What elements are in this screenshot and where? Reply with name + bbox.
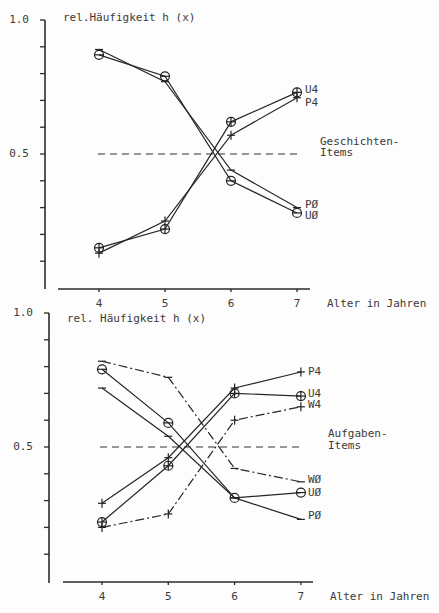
series-label: P4: [308, 365, 322, 378]
series-label: PØ: [308, 509, 322, 522]
x-tick-label: 6: [231, 590, 238, 603]
series-label: W4: [308, 398, 322, 411]
line-chart-figure: 1.00.54567Alter in Jahrenrel.Häufigkeit …: [0, 0, 439, 613]
x-axis-label: Alter in Jahren: [327, 297, 426, 310]
series-line: [102, 372, 301, 503]
annotation-label: Items: [328, 439, 361, 452]
series-label: UØ: [305, 209, 319, 222]
series-label: WØ: [308, 473, 322, 486]
series-line: [102, 369, 301, 498]
series-p4: P4: [95, 93, 319, 257]
series-label: P4: [305, 96, 319, 109]
series-line: [102, 388, 301, 519]
x-axis-label: Alter in Jahren: [330, 590, 429, 603]
x-tick-label: 4: [96, 297, 103, 310]
series-line: [99, 92, 297, 247]
x-tick-label: 7: [294, 297, 301, 310]
y-tick-label: 0.5: [9, 147, 29, 160]
x-tick-label: 4: [99, 590, 106, 603]
series-label: U4: [305, 83, 319, 96]
series-line: [99, 55, 297, 213]
series-p0: PØ: [95, 49, 319, 211]
series-line: [102, 393, 301, 522]
y-tick-label: 1.0: [9, 13, 29, 26]
x-tick-label: 7: [298, 590, 305, 603]
y-axis-title: rel. Häufigkeit h (x): [67, 312, 206, 325]
y-tick-label: 0.5: [13, 440, 33, 453]
series-w4: W4: [98, 398, 322, 531]
x-tick-label: 5: [165, 590, 172, 603]
annotation-label: Items: [320, 146, 353, 159]
x-tick-label: 6: [228, 297, 235, 310]
chart-geschichten-items: 1.00.54567Alter in Jahrenrel.Häufigkeit …: [9, 11, 426, 310]
series-u4: U4: [98, 387, 322, 526]
figure-page: 1.00.54567Alter in Jahrenrel.Häufigkeit …: [0, 0, 439, 613]
y-tick-label: 1.0: [13, 306, 33, 319]
series-p4: P4: [98, 365, 322, 507]
x-tick-label: 5: [162, 297, 169, 310]
y-axis-title: rel.Häufigkeit h (x): [63, 11, 195, 24]
annotation-label: Aufgaben-: [328, 427, 388, 440]
series-label: UØ: [308, 486, 322, 499]
series-w0: WØ: [98, 361, 322, 485]
chart-aufgaben-items: 1.00.54567Alter in Jahrenrel. Häufigkeit…: [13, 306, 429, 603]
